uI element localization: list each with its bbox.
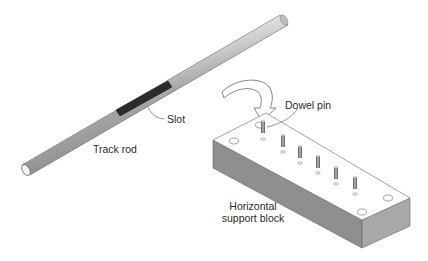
support-block-label-line2: support block [218, 212, 288, 224]
support-block-label-line1: Horizontal [218, 200, 288, 212]
horizontal-support-block [213, 113, 410, 248]
diagram-canvas: Slot Track rod Dowel pin Horizontal supp… [0, 0, 428, 261]
slot-leader-line [148, 107, 164, 119]
slot-label: Slot [167, 113, 185, 125]
support-block-label: Horizontal support block [218, 200, 288, 224]
diagram-svg [0, 0, 428, 261]
dowel-pin-label: Dowel pin [285, 99, 331, 111]
track-rod-label: Track rod [93, 143, 137, 155]
rod-slot [116, 81, 172, 116]
